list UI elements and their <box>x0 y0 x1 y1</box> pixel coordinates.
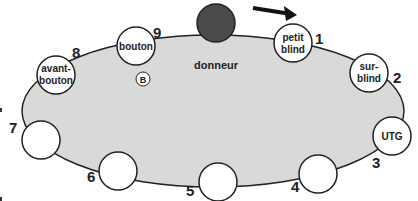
svg-text:avant-: avant- <box>41 63 70 74</box>
seat-number: 2 <box>393 69 401 86</box>
seat-number: 5 <box>186 182 194 199</box>
svg-text:petit: petit <box>282 32 304 43</box>
svg-text:bouton: bouton <box>39 75 73 86</box>
svg-text:sur-: sur- <box>360 61 379 72</box>
seat-3: UTG 3 <box>372 117 411 171</box>
seat-7: 7 <box>9 119 60 159</box>
poker-table-diagram: donneur B petit blind 1 sur- blind 2 UTG… <box>0 0 418 201</box>
svg-text:blind: blind <box>357 73 381 84</box>
seat-number: 1 <box>315 30 323 47</box>
edge-mark <box>0 197 2 201</box>
svg-text:bouton: bouton <box>119 41 153 52</box>
edge-mark <box>0 108 2 112</box>
svg-text:UTG: UTG <box>381 131 402 142</box>
seat-number: 7 <box>9 119 17 136</box>
arrow-right-icon <box>253 6 297 21</box>
seat-number: 3 <box>372 154 380 171</box>
svg-text:blind: blind <box>281 44 305 55</box>
seat-number: 9 <box>153 24 161 41</box>
seat-number: 8 <box>72 44 80 61</box>
seat-number: 6 <box>87 168 95 185</box>
button-marker: B <box>136 72 150 86</box>
dealer-label: donneur <box>194 59 239 71</box>
dealer-chip <box>197 4 235 42</box>
button-marker-label: B <box>140 75 147 85</box>
seat-number: 4 <box>291 178 300 195</box>
